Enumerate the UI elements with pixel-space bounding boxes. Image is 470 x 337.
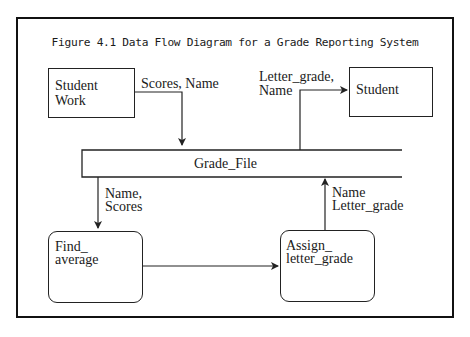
flow-arrow-letter-grade-name	[300, 90, 347, 150]
process-assign-letter-grade-line2: letter_grade	[286, 252, 353, 266]
entity-student-label: Student	[356, 83, 399, 97]
entity-student-work-line1: Student	[55, 79, 98, 93]
flow-label-letter-grade-name-1: Letter_grade,	[259, 70, 334, 84]
flow-label-letter-grade-name-2: Name	[259, 84, 292, 98]
data-store-label: Grade_File	[194, 157, 257, 171]
flow-label-name-letter-grade-2: Letter_grade	[332, 199, 404, 213]
process-find-average-line2: average	[55, 253, 99, 267]
flow-label-name-scores-2: Scores	[105, 200, 142, 214]
entity-student-work-line2: Work	[55, 94, 86, 108]
flow-label-scores-name: Scores, Name	[141, 77, 219, 91]
flow-arrow-scores-name	[134, 92, 182, 145]
